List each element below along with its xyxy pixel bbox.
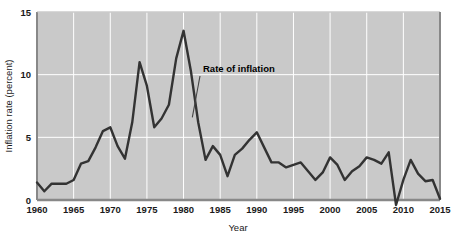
y-tick-label: 5 bbox=[26, 132, 32, 143]
x-tick-label: 1990 bbox=[246, 204, 267, 215]
x-tick-label: 1975 bbox=[136, 204, 158, 215]
inflation-rate-chart: 051015 196019651970197519801985199019952… bbox=[0, 0, 452, 236]
y-tick-label: 15 bbox=[20, 7, 31, 18]
x-tick-label: 1985 bbox=[210, 204, 232, 215]
plot-area-background bbox=[37, 12, 440, 200]
x-tick-label: 1960 bbox=[26, 204, 47, 215]
x-axis-title: Year bbox=[228, 222, 247, 233]
x-tick-label: 2015 bbox=[429, 204, 451, 215]
y-tick-label: 10 bbox=[20, 69, 31, 80]
x-tick-label: 1995 bbox=[283, 204, 305, 215]
x-tick-label: 2000 bbox=[320, 204, 341, 215]
x-tick-label: 1965 bbox=[63, 204, 85, 215]
annotation-label: Rate of inflation bbox=[203, 63, 275, 74]
x-tick-label: 2005 bbox=[356, 204, 378, 215]
x-tick-label: 1970 bbox=[100, 204, 121, 215]
chart-canvas: 051015 196019651970197519801985199019952… bbox=[0, 0, 452, 236]
x-tick-label: 1980 bbox=[173, 204, 194, 215]
y-axis-title: Inflation rate (percent) bbox=[3, 60, 14, 153]
